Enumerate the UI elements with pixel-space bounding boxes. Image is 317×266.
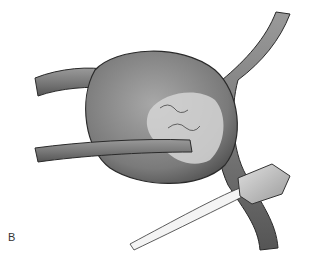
vascular-illustration	[0, 0, 317, 266]
panel-label: B	[8, 231, 15, 243]
